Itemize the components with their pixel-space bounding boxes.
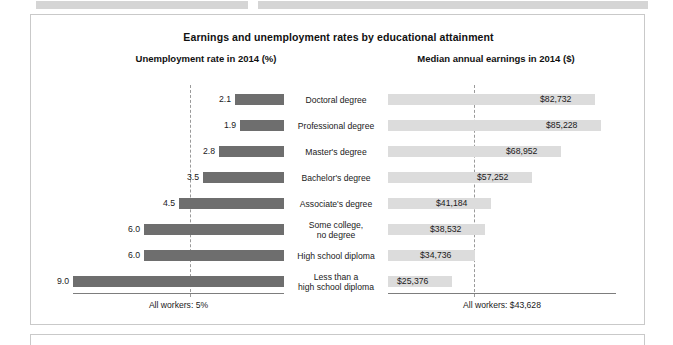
reference-label-earnings: All workers: $43,628 <box>388 300 616 310</box>
value-unemployment: 2.1 <box>219 93 231 105</box>
unemployment-track: 9.0 <box>61 269 284 295</box>
bar-unemployment <box>144 250 284 261</box>
unemployment-track: 6.0 <box>61 217 284 243</box>
unemployment-track: 6.0 <box>61 243 284 269</box>
earnings-track: $34,736 <box>388 243 616 269</box>
reference-label-unemployment: All workers: 5% <box>73 300 284 310</box>
earnings-track: $68,952 <box>388 139 616 165</box>
chart-row: 4.5 Associate's degree $41,184 <box>31 191 646 217</box>
chart-row: 6.0 Some college, no degree $38,532 <box>31 217 646 243</box>
category-label: Bachelor's degree <box>284 165 388 191</box>
value-earnings: $57,252 <box>477 171 508 183</box>
bar-unemployment <box>144 224 284 235</box>
unemployment-track: 1.9 <box>61 113 284 139</box>
bar-unemployment <box>203 172 284 183</box>
category-label: Less than a high school diploma <box>284 269 388 295</box>
earnings-track: $38,532 <box>388 217 616 243</box>
value-unemployment: 6.0 <box>128 223 140 235</box>
chart-row: 1.9 Professional degree $85,228 <box>31 113 646 139</box>
category-label: Professional degree <box>284 113 388 139</box>
value-earnings: $85,228 <box>546 119 577 131</box>
axis-unemployment <box>73 293 284 294</box>
earnings-track: $85,228 <box>388 113 616 139</box>
chart-row: 2.1 Doctoral degree $82,732 <box>31 87 646 113</box>
value-earnings: $34,736 <box>420 249 451 261</box>
value-unemployment: 2.8 <box>203 145 215 157</box>
earnings-track: $25,376 <box>388 269 616 295</box>
category-label: Doctoral degree <box>284 87 388 113</box>
bar-unemployment <box>240 120 284 131</box>
chart-row: 3.5 Bachelor's degree $57,252 <box>31 165 646 191</box>
chart-card: Earnings and unemployment rates by educa… <box>30 14 645 325</box>
axis-earnings <box>388 293 616 294</box>
value-earnings: $25,376 <box>397 275 428 287</box>
category-label: High school diploma <box>284 243 388 269</box>
category-label: Some college, no degree <box>284 217 388 243</box>
value-unemployment: 4.5 <box>163 197 175 209</box>
unemployment-track: 2.8 <box>61 139 284 165</box>
value-unemployment: 9.0 <box>57 275 69 287</box>
page-artifact-block-left <box>36 1 248 9</box>
chart-row: 6.0 High school diploma $34,736 <box>31 243 646 269</box>
unemployment-track: 3.5 <box>61 165 284 191</box>
page-top-artifacts <box>0 0 673 10</box>
value-earnings: $38,532 <box>430 223 461 235</box>
earnings-track: $41,184 <box>388 191 616 217</box>
chart-row: 2.8 Master's degree $68,952 <box>31 139 646 165</box>
value-unemployment: 6.0 <box>128 249 140 261</box>
value-unemployment: 1.9 <box>224 119 236 131</box>
earnings-track: $57,252 <box>388 165 616 191</box>
bar-unemployment <box>235 94 284 105</box>
category-label: Associate's degree <box>284 191 388 217</box>
bar-unemployment <box>219 146 284 157</box>
category-label: Master's degree <box>284 139 388 165</box>
earnings-track: $82,732 <box>388 87 616 113</box>
unemployment-track: 4.5 <box>61 191 284 217</box>
next-figure-card <box>30 334 645 345</box>
bar-unemployment <box>73 276 284 287</box>
value-earnings: $41,184 <box>436 197 467 209</box>
value-earnings: $68,952 <box>506 145 537 157</box>
value-earnings: $82,732 <box>540 93 571 105</box>
chart-row: 9.0 Less than a high school diploma $25,… <box>31 269 646 295</box>
unemployment-track: 2.1 <box>61 87 284 113</box>
bar-unemployment <box>179 198 284 209</box>
bar-earnings <box>388 172 532 183</box>
page-artifact-block-right <box>258 1 648 9</box>
value-unemployment: 3.5 <box>187 171 199 183</box>
plot-area: 2.1 Doctoral degree $82,732 1.9 Professi… <box>31 15 646 326</box>
